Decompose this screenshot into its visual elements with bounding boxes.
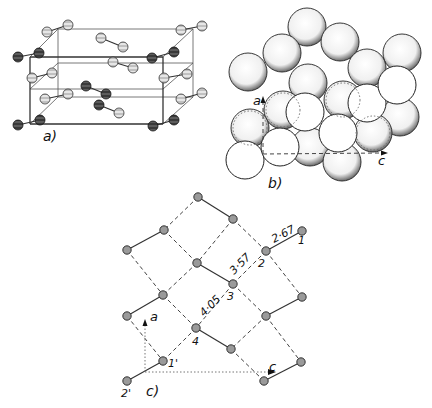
distance-3-57: 3·57 [227,251,254,278]
axis-a-label-b: a [253,93,261,108]
distance-2-67: 2·67 [269,223,297,246]
panel-c-label: c) [146,383,159,399]
panel-a: a) [13,20,207,144]
panel-a-label: a) [43,128,57,144]
contacts [127,197,302,381]
panel-b-label: b) [268,175,282,191]
panel-c: a c 1 2 3 4 1' 2' 2·67 3·57 4·05 c) [121,193,306,400]
atoms-c [123,193,306,385]
axis-c-label-b: c [378,153,385,168]
figure-canvas: a) [0,0,432,408]
atom-label-3: 3 [227,290,234,303]
panel-b: a c b) [226,8,421,191]
atom-label-4: 4 [192,335,199,348]
atom-label-2prime: 2' [121,387,131,400]
axis-c-label-c: c [269,359,276,374]
distance-4-05: 4·05 [197,293,224,320]
bonds-c [127,197,302,381]
axis-a-label-c: a [150,309,158,324]
atom-label-1: 1 [298,234,305,247]
molecules-a [13,20,207,131]
atom-label-2: 2 [258,257,265,270]
atom-label-1prime: 1' [168,357,178,370]
